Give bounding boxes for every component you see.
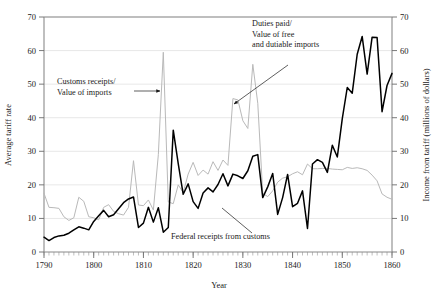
y-axis-left-tick-label: 10 bbox=[28, 213, 37, 223]
chart-figure: 17901800181018201830184018501860 0102030… bbox=[0, 0, 438, 293]
x-axis-tick-label: 1860 bbox=[384, 260, 401, 270]
y-axis-right-tick-label: 10 bbox=[400, 213, 409, 223]
chart-background bbox=[0, 0, 438, 293]
x-axis-tick-label: 1820 bbox=[185, 260, 202, 270]
y-axis-right-tick-label: 60 bbox=[400, 46, 409, 56]
y-axis-left-tick-label: 30 bbox=[28, 146, 37, 156]
x-axis-tick-label: 1850 bbox=[334, 260, 351, 270]
y-axis-right-tick-label: 50 bbox=[400, 79, 409, 89]
x-axis-tick-label: 1800 bbox=[85, 260, 102, 270]
annotation-text-line: and dutiable imports bbox=[252, 40, 319, 49]
y-axis-left-tick-label: 60 bbox=[28, 46, 37, 56]
y-axis-right-title: Income from tariff (millions of dollars) bbox=[421, 68, 431, 201]
x-axis-tick-label: 1830 bbox=[234, 260, 251, 270]
y-axis-left-tick-label: 70 bbox=[28, 12, 37, 22]
x-axis-tick-label: 1810 bbox=[135, 260, 152, 270]
y-axis-left-title: Average tariff rate bbox=[3, 104, 13, 166]
x-axis-tick-label: 1840 bbox=[284, 260, 301, 270]
x-axis-tick-label: 1790 bbox=[36, 260, 53, 270]
y-axis-left-tick-label: 50 bbox=[28, 79, 37, 89]
annotation-text-line: Duties paid/ bbox=[252, 19, 293, 28]
y-axis-right-tick-label: 20 bbox=[400, 180, 409, 190]
y-axis-right-tick-label: 0 bbox=[400, 247, 404, 257]
y-axis-left-tick-label: 20 bbox=[28, 180, 37, 190]
y-axis-right-tick-label: 70 bbox=[400, 12, 409, 22]
annotation-text-line: Value of imports bbox=[57, 88, 112, 97]
y-axis-right-tick-label: 30 bbox=[400, 146, 409, 156]
y-axis-left-tick-label: 0 bbox=[32, 247, 36, 257]
y-axis-left-tick-label: 40 bbox=[28, 113, 37, 123]
annotation-text-line: Value of free bbox=[252, 30, 295, 39]
x-axis-title: Year bbox=[211, 280, 227, 290]
y-axis-right-tick-label: 40 bbox=[400, 113, 409, 123]
tariff-chart: 17901800181018201830184018501860 0102030… bbox=[0, 0, 438, 293]
annotation-text-line: Customs receipts/ bbox=[57, 77, 116, 86]
annotation-text-line: Federal receipts from customs bbox=[171, 232, 270, 241]
